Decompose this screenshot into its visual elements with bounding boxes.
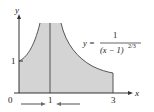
x-axis-arrow-icon (128, 91, 133, 95)
y-axis-label: y (14, 5, 19, 15)
arrow-right-icon (41, 102, 46, 106)
x-tick-label-1: 1 (48, 95, 53, 105)
improper-integral-figure: y x 1 0 1 3 y = 1 (x − 1) 2/3 (0, 0, 154, 112)
shaded-region (19, 23, 113, 93)
y-tick-label-1: 1 (11, 56, 16, 66)
function-label-denominator: (x − 1) (100, 45, 124, 55)
function-label-exponent: 2/3 (128, 43, 136, 49)
function-label-lhs: y = (82, 38, 95, 48)
function-label-numerator: 1 (113, 30, 117, 40)
x-tick-label-0: 0 (8, 95, 13, 105)
arrow-left-icon (56, 102, 61, 106)
x-axis-label: x (134, 88, 139, 98)
x-tick-label-3: 3 (111, 95, 116, 105)
